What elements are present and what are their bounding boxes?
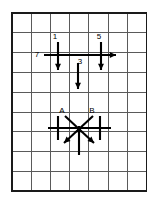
vector-label-B: B: [89, 106, 94, 115]
vector-overlay-layer: 1573AB: [0, 0, 157, 204]
vector-label-1: 1: [53, 32, 58, 41]
lower-vector-cluster: AB: [48, 106, 111, 155]
upper-vector-cluster: 1573: [35, 32, 116, 89]
figure-container: 1573AB: [0, 0, 157, 204]
vector-label-A: A: [59, 106, 65, 115]
vector-label-7: 7: [35, 50, 40, 59]
vector-label-5: 5: [97, 32, 102, 41]
vector-5-arrowhead: [98, 64, 104, 70]
vector-7-arrowhead: [110, 52, 116, 58]
vector-1-arrowhead: [55, 64, 61, 70]
vector-label-3: 3: [78, 57, 83, 66]
vector-3-arrowhead: [75, 83, 81, 89]
